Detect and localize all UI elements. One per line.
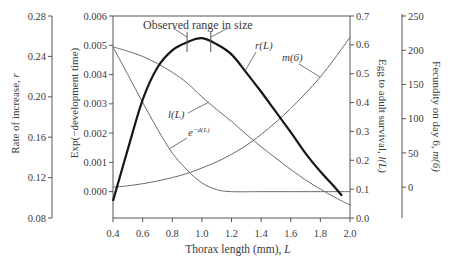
- r-curve-label: r(L): [255, 39, 273, 52]
- exp-d-label-superscript: −d(L): [193, 126, 210, 134]
- surv-tick-label: 0.5: [356, 68, 369, 79]
- observed-range-annotation: Observed range in size: [143, 18, 253, 52]
- fec-tick-label: 100: [408, 113, 424, 124]
- x-axis-title-text: Thorax length (mm),: [185, 243, 284, 256]
- exp-d-curve-leader: [169, 138, 187, 149]
- fec-tick-label: 250: [408, 11, 424, 22]
- exp-d-curve-label: e−d(L): [188, 126, 210, 139]
- axes: 0.40.60.81.01.21.41.61.82.00.080.120.160…: [28, 11, 424, 239]
- fecundity-axis-title: Fecundity on day 6, m(6): [430, 61, 443, 172]
- fecundity-axis-title-text: Fecundity on day 6,: [431, 61, 443, 151]
- exp-tick-label: 0.002: [83, 128, 107, 139]
- r-axis-title: Rate of increase, r: [9, 72, 21, 153]
- r-tick-label: 0.08: [28, 213, 46, 224]
- x-tick-label: 1.0: [195, 228, 208, 239]
- x-tick-label: 0.4: [106, 228, 120, 239]
- l-curve-label: l(L): [168, 108, 185, 121]
- x-tick-label: 0.6: [136, 228, 149, 239]
- r-curve-leader: [245, 52, 256, 71]
- survival-axis-title-text: Egg to adult survival,: [377, 59, 389, 156]
- surv-tick-label: 0.3: [356, 126, 369, 137]
- survival-axis-title: Egg to adult survival, l(L): [376, 59, 389, 173]
- curves: [113, 37, 350, 205]
- surv-tick-label: 0.4: [356, 97, 370, 108]
- x-tick-label: 1.4: [255, 228, 269, 239]
- surv-tick-label: 0.0: [356, 213, 369, 224]
- exp-tick-label: 0.005: [83, 40, 107, 51]
- r-axis-title-text: Rate of increase,: [9, 77, 21, 153]
- r-curve: [113, 38, 342, 201]
- surv-tick-label: 0.2: [356, 155, 369, 166]
- exp-axis: 0.0000.0010.0020.0030.0040.0050.006: [83, 11, 113, 198]
- surv-tick-label: 0.6: [356, 39, 369, 50]
- plot-frame: [113, 16, 350, 218]
- fecundity-axis-title-var: m(6): [430, 151, 443, 172]
- x-tick-label: 1.2: [225, 228, 238, 239]
- surv-tick-label: 0.1: [356, 184, 369, 195]
- exp-tick-label: 0.001: [83, 157, 107, 168]
- survival-axis-title-var: l(L): [376, 156, 389, 173]
- exp-tick-label: 0.000: [83, 186, 107, 197]
- exp-axis-title: Exp(−development time): [68, 47, 81, 158]
- x-tick-label: 1.8: [314, 228, 327, 239]
- survival-curve: [113, 47, 350, 205]
- m6-curve-leader: [299, 64, 320, 77]
- r-tick-label: 0.12: [28, 172, 46, 183]
- m6-curve-label: m(6): [282, 51, 303, 64]
- r-tick-label: 0.28: [28, 11, 46, 22]
- x-axis-title: Thorax length (mm), L: [185, 243, 290, 256]
- fec-tick-label: 50: [408, 148, 419, 159]
- fec-tick-label: 200: [408, 45, 424, 56]
- x-tick-label: 1.6: [284, 228, 297, 239]
- fec-axis: 050100150200250: [402, 11, 424, 218]
- l-curve-leader: [188, 102, 209, 113]
- r-axis-title-var: r: [9, 72, 21, 77]
- x-tick-label: 2.0: [343, 228, 356, 239]
- x-axis-title-var: L: [283, 243, 290, 255]
- r-tick-label: 0.20: [28, 91, 46, 102]
- fec-tick-label: 150: [408, 79, 424, 90]
- x-tick-label: 0.8: [166, 228, 179, 239]
- exp-d-curve: [113, 47, 350, 192]
- exp-tick-label: 0.004: [83, 69, 107, 80]
- r-tick-label: 0.16: [28, 132, 46, 143]
- figure: 0.40.60.81.01.21.41.61.82.00.080.120.160…: [0, 0, 452, 269]
- observed-range-label: Observed range in size: [143, 18, 253, 32]
- exp-tick-label: 0.006: [83, 11, 107, 22]
- r-tick-label: 0.24: [28, 51, 47, 62]
- fec-tick-label: 0: [408, 182, 413, 193]
- surv-tick-label: 0.7: [356, 11, 369, 22]
- r-axis: 0.080.120.160.200.240.28: [28, 11, 52, 224]
- exp-tick-label: 0.003: [83, 98, 107, 109]
- surv-axis: 0.00.10.20.30.40.50.60.7: [350, 11, 370, 224]
